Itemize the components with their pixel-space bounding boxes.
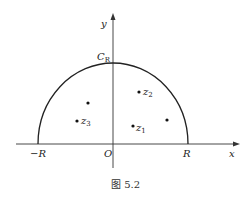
- x-axis-label: x: [229, 149, 235, 159]
- neg-r-label: −R: [30, 149, 46, 159]
- pos-r-label: R: [183, 149, 191, 159]
- x-axis-arrow-icon: [233, 142, 240, 147]
- z3-label: z3: [81, 116, 91, 128]
- contour-label-main: C: [97, 51, 105, 62]
- figure-caption: 图 5.2: [0, 176, 251, 191]
- y-axis-label: y: [101, 19, 107, 29]
- z3-sub: 3: [86, 120, 90, 128]
- point-unlabeled-right: [165, 118, 168, 121]
- point-unlabeled-left: [86, 101, 89, 104]
- origin-label: O: [104, 149, 112, 159]
- z1-sub: 1: [141, 127, 145, 135]
- z2-sub: 2: [148, 91, 152, 99]
- point-z2: [137, 90, 140, 93]
- contour-label-sub: R: [105, 56, 110, 64]
- point-z3: [75, 119, 78, 122]
- z1-label: z1: [136, 123, 146, 135]
- diagram-canvas: [0, 0, 251, 200]
- contour-label: CR: [97, 52, 110, 64]
- point-z1: [131, 124, 134, 127]
- y-axis-arrow-icon: [111, 13, 116, 20]
- z2-label: z2: [143, 87, 153, 99]
